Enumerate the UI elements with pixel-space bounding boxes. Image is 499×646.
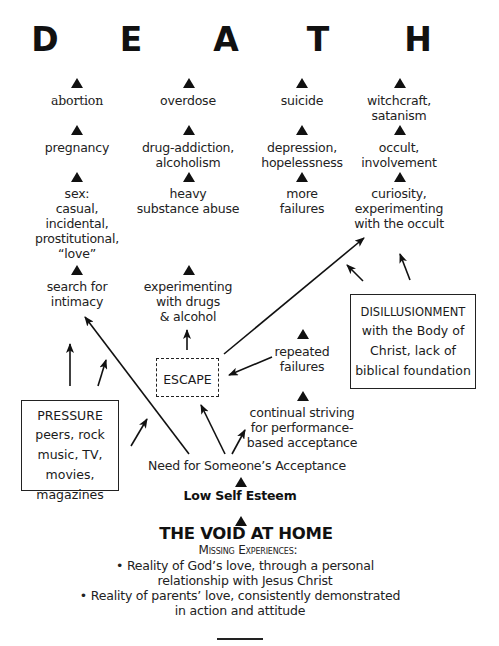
arrow-need-to-striving — [232, 430, 245, 454]
arrow-failures-to-escape — [229, 357, 272, 375]
arrow-need-to-intimacy — [85, 317, 189, 454]
arrow-escape-to-occult — [224, 238, 364, 354]
arrow-pressure-to-need — [131, 419, 147, 446]
arrow-need-to-escape — [201, 405, 225, 454]
arrow-disillusion-up-2 — [400, 254, 410, 280]
arrows-layer — [0, 0, 499, 646]
arrow-pressure-up-2 — [98, 360, 106, 386]
arrow-disillusion-up-1 — [347, 265, 363, 281]
